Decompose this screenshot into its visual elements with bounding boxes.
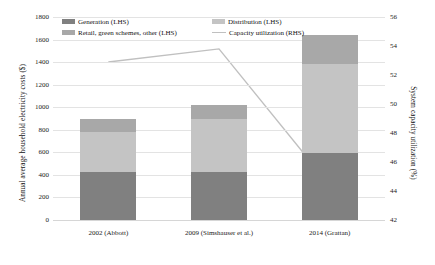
y-axis-left-tick: 400 (39, 171, 50, 179)
x-axis-tick-label: 2002 (Abbott) (88, 229, 128, 237)
legend-item-retail: Retail, green schemes, other (LHS) (62, 29, 212, 37)
y-axis-right-tick: 54 (390, 42, 397, 50)
x-axis-tick-label: 2009 (Simshauser et al.) (185, 229, 253, 237)
bar-segment[interactable] (191, 119, 247, 172)
swatch-retail-icon (62, 30, 75, 35)
y-axis-left-title: Annual average household electricity cos… (19, 48, 27, 218)
y-axis-right-tick: 56 (390, 13, 397, 21)
bar-segment[interactable] (80, 172, 136, 220)
legend-item-generation: Generation (LHS) (62, 18, 212, 26)
line-capacity-icon (212, 32, 226, 33)
bar-segment[interactable] (191, 105, 247, 119)
y-axis-right-tick: 46 (390, 158, 397, 166)
y-axis-left-tick: 1800 (35, 13, 49, 21)
x-axis-tick-label: 2014 (Grattan) (309, 229, 350, 237)
bar-segment[interactable] (191, 172, 247, 220)
gridline (53, 220, 385, 221)
chart-legend: Generation (LHS) Distribution (LHS) Reta… (62, 16, 334, 38)
swatch-distribution-icon (212, 19, 225, 24)
y-axis-right-tick: 44 (390, 187, 397, 195)
bar-segment[interactable] (80, 119, 136, 133)
legend-label-retail: Retail, green schemes, other (LHS) (78, 29, 177, 37)
bar-segment[interactable] (302, 64, 358, 153)
legend-label-distribution: Distribution (LHS) (228, 18, 281, 26)
y-axis-left-tick: 1600 (35, 36, 49, 44)
y-axis-left-tick: 1200 (35, 81, 49, 89)
bar-segment[interactable] (80, 132, 136, 171)
swatch-generation-icon (62, 19, 75, 24)
y-axis-left-tick: 0 (46, 216, 50, 224)
y-axis-right-tick: 52 (390, 71, 397, 79)
bar-group[interactable]: 2014 (Grattan) (302, 35, 358, 220)
y-axis-right-tick: 48 (390, 129, 397, 137)
bar-group[interactable]: 2009 (Simshauser et al.) (191, 105, 247, 220)
plot-area: 0200400600800100012001400160018004244464… (53, 17, 385, 220)
y-axis-right-title: System capacity utilization (%) (409, 48, 417, 218)
y-axis-left-tick: 800 (39, 126, 50, 134)
y-axis-left-tick: 1000 (35, 103, 49, 111)
bar-group[interactable]: 2002 (Abbott) (80, 119, 136, 221)
y-axis-left-tick: 1400 (35, 58, 49, 66)
y-axis-right-tick: 42 (390, 216, 397, 224)
y-axis-left-tick: 600 (39, 148, 50, 156)
legend-item-distribution: Distribution (LHS) (212, 18, 334, 26)
legend-item-capacity-utilization: Capacity utilization (RHS) (212, 29, 334, 37)
legend-label-capacity-utilization: Capacity utilization (RHS) (229, 29, 304, 37)
y-axis-right-tick: 50 (390, 100, 397, 108)
legend-label-generation: Generation (LHS) (78, 18, 129, 26)
chart-container: Annual average household electricity cos… (0, 0, 435, 265)
bar-segment[interactable] (302, 153, 358, 220)
y-axis-left-tick: 200 (39, 193, 50, 201)
bar-segment[interactable] (302, 35, 358, 64)
